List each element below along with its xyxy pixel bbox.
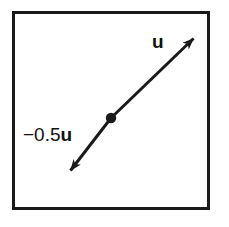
vector-graphic — [0, 0, 229, 227]
negative-vector-arrow — [71, 118, 112, 171]
vector-diagram: u −0.5u — [0, 0, 229, 227]
vector-label-negative-half-u-symbol: u — [61, 124, 73, 145]
vector-label-negative-half-u: −0.5u — [23, 125, 72, 144]
vector-label-negative-half-u-prefix: −0.5 — [23, 124, 61, 145]
vector-label-u: u — [152, 32, 164, 51]
origin-point-dot — [106, 113, 116, 123]
